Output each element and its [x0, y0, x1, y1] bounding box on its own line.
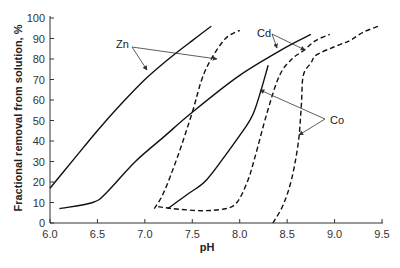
y-tick-label: 60: [33, 94, 45, 106]
y-axis-title: Fractional removal from solution, %: [12, 24, 24, 211]
y-tick-label: 30: [33, 156, 45, 168]
series-cd-solid: [60, 34, 311, 208]
label-zn: Zn: [116, 38, 129, 50]
series-co-solid: [168, 65, 269, 209]
annotation-layer: ZnCdCo: [116, 27, 344, 135]
removal-vs-ph-chart: 6.06.57.07.58.08.59.09.5 010203040506070…: [0, 0, 400, 268]
x-tick-label: 6.5: [90, 228, 105, 240]
series-co-dashed: [273, 26, 378, 223]
y-tick-label: 90: [33, 33, 45, 45]
y-tick-label: 80: [33, 53, 45, 65]
y-tick-label: 50: [33, 115, 45, 127]
x-ticks: 6.06.57.07.58.08.59.09.5: [42, 219, 389, 240]
series-cd-dashed: [158, 34, 330, 210]
x-axis-title: pH: [200, 241, 215, 253]
series-layer: [50, 26, 378, 223]
y-tick-label: 40: [33, 135, 45, 147]
x-tick-label: 6.0: [42, 228, 57, 240]
y-tick-label: 20: [33, 176, 45, 188]
series-zn-dashed: [154, 30, 239, 208]
x-tick-label: 7.0: [137, 228, 152, 240]
y-tick-label: 100: [27, 12, 45, 24]
arrow-co: [299, 119, 325, 135]
x-tick-label: 9.0: [327, 228, 342, 240]
y-tick-label: 10: [33, 197, 45, 209]
x-tick-label: 8.5: [279, 228, 294, 240]
arrow-zn: [132, 47, 217, 59]
label-co: Co: [330, 114, 344, 126]
label-cd: Cd: [257, 27, 271, 39]
series-zn-solid: [50, 26, 211, 188]
y-tick-label: 70: [33, 74, 45, 86]
y-tick-label: 0: [39, 217, 45, 229]
arrow-zn: [132, 47, 147, 70]
x-tick-label: 9.5: [374, 228, 389, 240]
x-tick-label: 7.5: [185, 228, 200, 240]
x-tick-label: 8.0: [232, 228, 247, 240]
